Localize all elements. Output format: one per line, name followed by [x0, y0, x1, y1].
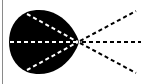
- lens-ray-diagram: [0, 0, 141, 84]
- diagram-canvas: [0, 0, 141, 84]
- outer-diverging-rays: [80, 11, 141, 73]
